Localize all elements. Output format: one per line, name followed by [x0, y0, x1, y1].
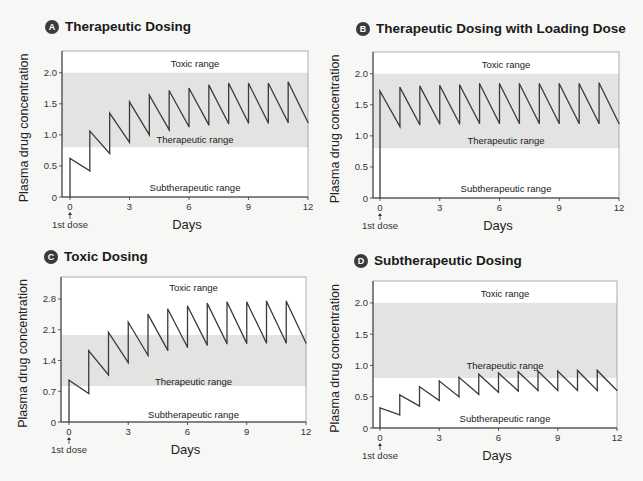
peak-point: [108, 332, 109, 333]
trough-point: [479, 123, 480, 124]
trough-point: [108, 374, 109, 375]
peak-point: [399, 87, 400, 88]
subtherapeutic-range-label: Subtherapeutic range: [461, 183, 552, 194]
peak-point: [246, 301, 247, 302]
peak-point: [69, 158, 70, 159]
peak-point: [286, 301, 287, 302]
first-dose-label: 1st dose: [362, 450, 398, 461]
trough-point: [419, 124, 420, 125]
chart-panel-c: C Toxic Dosing 00.71.42.12.8036912Toxic …: [0, 240, 320, 481]
peak-point: [288, 81, 289, 82]
y-tick-label: 0: [363, 193, 368, 204]
x-tick-label: 12: [614, 202, 625, 213]
peak-point: [439, 85, 440, 86]
subtherapeutic-range-label: Subtherapeutic range: [460, 413, 551, 424]
peak-point: [597, 370, 598, 371]
peak-point: [479, 83, 480, 84]
chart-panel-d: D Subtherapeutic Dosing 00.51.01.52.0036…: [320, 240, 643, 481]
x-tick-label: 6: [186, 201, 191, 212]
x-tick-label: 6: [497, 202, 502, 213]
first-dose-arrowhead-icon: [67, 437, 71, 440]
trough-point: [286, 342, 287, 343]
trough-point: [268, 122, 269, 123]
peak-point: [379, 407, 380, 408]
subtherapeutic-range-label: Subtherapeutic range: [148, 409, 239, 420]
x-tick-label: 6: [496, 432, 501, 443]
trough-point: [88, 393, 89, 394]
trough-point: [128, 362, 129, 363]
trough-point: [305, 342, 306, 343]
peak-point: [109, 113, 110, 114]
trough-point: [419, 406, 420, 407]
trough-point: [266, 342, 267, 343]
trough-point: [208, 124, 209, 125]
peak-point: [226, 301, 227, 302]
trough-point: [519, 123, 520, 124]
peak-point: [557, 370, 558, 371]
x-tick-label: 0: [377, 202, 382, 213]
x-tick-label: 0: [377, 432, 382, 443]
peak-point: [399, 394, 400, 395]
trough-point: [598, 123, 599, 124]
trough-point: [498, 392, 499, 393]
x-tick-label: 9: [244, 426, 249, 437]
y-tick-label: 0: [51, 417, 56, 428]
toxic-range-label: Toxic range: [169, 282, 218, 293]
peak-point: [187, 305, 188, 306]
peak-point: [577, 370, 578, 371]
peak-point: [147, 314, 148, 315]
peak-point: [439, 380, 440, 381]
y-axis-title: Plasma drug concentration: [17, 54, 31, 203]
y-tick-label: 2.0: [44, 67, 57, 78]
x-axis-title: Days: [172, 217, 202, 232]
peak-point: [268, 83, 269, 84]
trough-point: [399, 126, 400, 127]
first-dose-label: 1st dose: [52, 219, 88, 230]
y-tick-label: 0: [363, 423, 368, 434]
trough-point: [618, 123, 619, 124]
y-axis-title: Plasma drug concentration: [328, 284, 342, 433]
trough-point: [616, 390, 617, 391]
trough-point: [169, 129, 170, 130]
therapeutic-range-label: Therapeutic range: [467, 135, 544, 146]
trough-point: [539, 123, 540, 124]
peak-point: [579, 83, 580, 84]
first-dose-arrowhead-icon: [378, 443, 382, 446]
trough-point: [557, 390, 558, 391]
x-tick-label: 0: [66, 426, 71, 437]
y-tick-label: 1.5: [44, 98, 57, 109]
trough-point: [579, 123, 580, 124]
peak-point: [519, 83, 520, 84]
peak-point: [539, 83, 540, 84]
x-tick-label: 12: [301, 426, 312, 437]
trough-point: [109, 153, 110, 154]
toxic-range-label: Toxic range: [482, 59, 531, 70]
y-tick-label: 1.5: [355, 99, 368, 110]
toxic-range-label: Toxic range: [481, 288, 530, 299]
peak-point: [228, 83, 229, 84]
peak-point: [518, 371, 519, 372]
trough-point: [129, 142, 130, 143]
x-axis-title: Days: [483, 218, 513, 233]
peak-point: [498, 372, 499, 373]
peak-point: [88, 350, 89, 351]
trough-point: [518, 390, 519, 391]
x-tick-label: 9: [555, 432, 560, 443]
trough-point: [559, 123, 560, 124]
peak-point: [128, 322, 129, 323]
peak-point: [248, 83, 249, 84]
x-axis-title: Days: [171, 442, 201, 457]
trough-point: [577, 390, 578, 391]
trough-point: [147, 355, 148, 356]
first-dose-label: 1st dose: [51, 444, 87, 455]
peak-point: [68, 380, 69, 381]
y-tick-label: 0: [52, 192, 57, 203]
peak-point: [149, 95, 150, 96]
trough-point: [187, 347, 188, 348]
therapeutic-range-label: Therapeutic range: [155, 376, 232, 387]
peak-point: [559, 83, 560, 84]
y-tick-label: 0.7: [43, 386, 56, 397]
y-tick-label: 2.0: [355, 297, 368, 308]
x-tick-label: 3: [437, 202, 442, 213]
first-dose-arrowhead-icon: [378, 213, 382, 216]
